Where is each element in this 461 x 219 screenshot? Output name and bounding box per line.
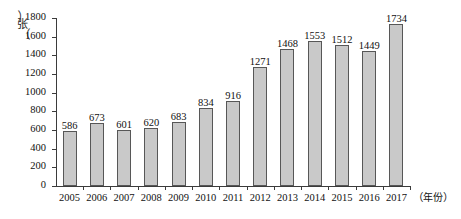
- y-axis-tick-label: 0: [6, 179, 46, 190]
- y-axis-tick: 1800: [52, 18, 56, 19]
- x-axis-category-label: 2010: [195, 192, 216, 204]
- bar: 1468: [280, 49, 294, 186]
- y-axis-tick: 800: [52, 111, 56, 112]
- x-axis-category-label: 2012: [250, 192, 271, 204]
- x-axis-category-label: 2006: [86, 192, 107, 204]
- bar: 620: [144, 128, 158, 186]
- x-axis-tick: [247, 186, 248, 190]
- x-axis-category-label: 2016: [359, 192, 380, 204]
- bar-value-label: 586: [62, 120, 78, 131]
- x-axis-title-text: 年份: [423, 192, 443, 203]
- x-axis-tick: [138, 186, 139, 190]
- bar-value-label: 673: [89, 112, 105, 123]
- bar-value-label: 916: [225, 90, 241, 101]
- bar-value-label: 1553: [304, 30, 325, 41]
- y-axis-tick-label: 1600: [6, 30, 46, 41]
- y-axis-tick: 1400: [52, 55, 56, 56]
- bar: 916: [226, 101, 240, 186]
- bar-value-label: 1734: [386, 13, 407, 24]
- bar: 1734: [389, 24, 403, 186]
- x-axis-tick: [83, 186, 84, 190]
- x-axis-category-label: 2011: [223, 192, 244, 204]
- y-axis-tick-label: 800: [6, 104, 46, 115]
- y-axis-tick: 600: [52, 130, 56, 131]
- x-axis-title-paren-close: ）: [443, 192, 453, 203]
- x-axis-tick: [165, 186, 166, 190]
- x-axis-tick: [356, 186, 357, 190]
- y-axis-tick: 200: [52, 167, 56, 168]
- x-axis-category-label: 2014: [304, 192, 325, 204]
- x-axis-tick: [274, 186, 275, 190]
- y-axis-tick: 1600: [52, 37, 56, 38]
- x-axis-title: （年份）: [413, 192, 453, 204]
- y-axis-line: [56, 18, 57, 186]
- bar: 1512: [335, 45, 349, 186]
- y-axis-tick-label: 400: [6, 142, 46, 153]
- bar-value-label: 601: [116, 119, 132, 130]
- y-axis-tick: 1200: [52, 74, 56, 75]
- bar-value-label: 834: [198, 97, 214, 108]
- bar: 1271: [253, 67, 267, 186]
- bar: 601: [117, 130, 131, 186]
- bar: 1553: [308, 41, 322, 186]
- plot-area: 0200400600800100012001400160018005862005…: [56, 18, 410, 186]
- bar-value-label: 1512: [331, 34, 352, 45]
- x-axis-category-label: 2007: [114, 192, 135, 204]
- bar-value-label: 1468: [277, 38, 298, 49]
- x-axis-title-paren-open: （: [413, 192, 423, 203]
- x-axis-category-label: 2015: [331, 192, 352, 204]
- bar-value-label: 683: [171, 111, 187, 122]
- bar: 683: [172, 122, 186, 186]
- bar: 586: [63, 131, 77, 186]
- y-axis-tick-label: 600: [6, 123, 46, 134]
- y-axis-tick-label: 1400: [6, 48, 46, 59]
- x-axis-category-label: 2017: [386, 192, 407, 204]
- y-axis-tick: 1000: [52, 93, 56, 94]
- bar-value-label: 1271: [250, 56, 271, 67]
- x-axis-tick: [110, 186, 111, 190]
- bar: 1449: [362, 51, 376, 186]
- bar-value-label: 1449: [359, 40, 380, 51]
- x-axis-tick: [219, 186, 220, 190]
- bar-chart: ︵ 张 ︶ 0200400600800100012001400160018005…: [0, 0, 461, 219]
- x-axis-line: [56, 186, 410, 187]
- y-axis-tick-label: 1000: [6, 86, 46, 97]
- x-axis-tick: [383, 186, 384, 190]
- x-axis-category-label: 2008: [141, 192, 162, 204]
- x-axis-category-label: 2013: [277, 192, 298, 204]
- y-axis-tick-label: 200: [6, 160, 46, 171]
- bar-value-label: 620: [143, 117, 159, 128]
- y-axis-tick-label: 1800: [6, 11, 46, 22]
- x-axis-tick: [410, 186, 411, 190]
- x-axis-tick: [328, 186, 329, 190]
- y-axis-tick-label: 1200: [6, 67, 46, 78]
- y-axis-tick: 0: [52, 186, 56, 187]
- x-axis-tick: [301, 186, 302, 190]
- x-axis-category-label: 2005: [59, 192, 80, 204]
- bar: 673: [90, 123, 104, 186]
- bar: 834: [199, 108, 213, 186]
- x-axis-tick: [192, 186, 193, 190]
- y-axis-tick: 400: [52, 149, 56, 150]
- x-axis-category-label: 2009: [168, 192, 189, 204]
